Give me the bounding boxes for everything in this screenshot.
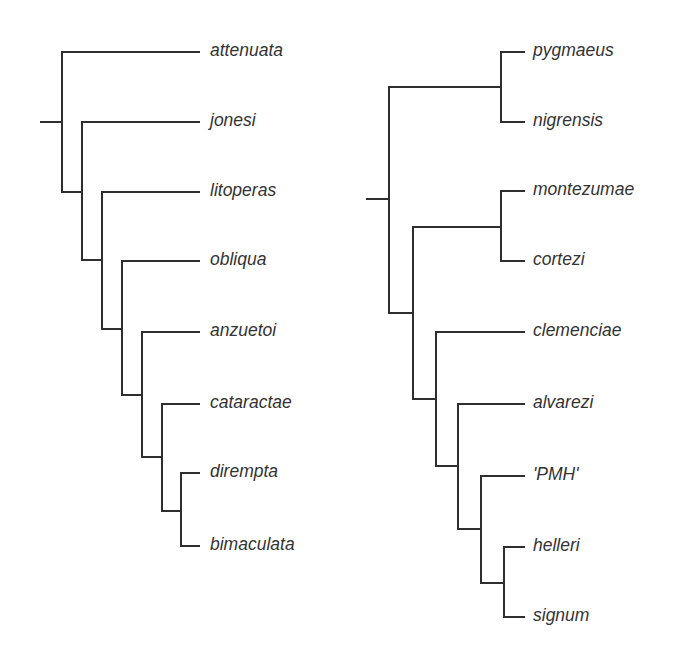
- taxon-label: helleri: [533, 537, 580, 555]
- taxon-label: clemenciae: [533, 322, 622, 340]
- taxon-label: jonesi: [210, 112, 256, 130]
- taxon-label: cortezi: [533, 251, 585, 269]
- taxon-label: nigrensis: [533, 112, 603, 130]
- taxon-label: pygmaeus: [533, 42, 614, 60]
- taxon-label: attenuata: [210, 42, 283, 60]
- taxon-label: litoperas: [210, 182, 276, 200]
- taxon-label: alvarezi: [533, 394, 593, 412]
- left-tree-branches: [41, 52, 199, 546]
- right-tree-branches: [367, 52, 524, 617]
- taxon-label: bimaculata: [210, 536, 295, 554]
- taxon-label: 'PMH': [533, 466, 579, 484]
- taxon-label: anzuetoi: [210, 322, 276, 340]
- taxon-label: cataractae: [210, 394, 292, 412]
- cladogram-figure: attenuatajonesilitoperasobliquaanzuetoic…: [0, 0, 695, 664]
- taxon-label: signum: [533, 607, 589, 625]
- taxon-label: dirempta: [210, 463, 278, 481]
- taxon-label: obliqua: [210, 251, 266, 269]
- taxon-label: montezumae: [533, 181, 634, 199]
